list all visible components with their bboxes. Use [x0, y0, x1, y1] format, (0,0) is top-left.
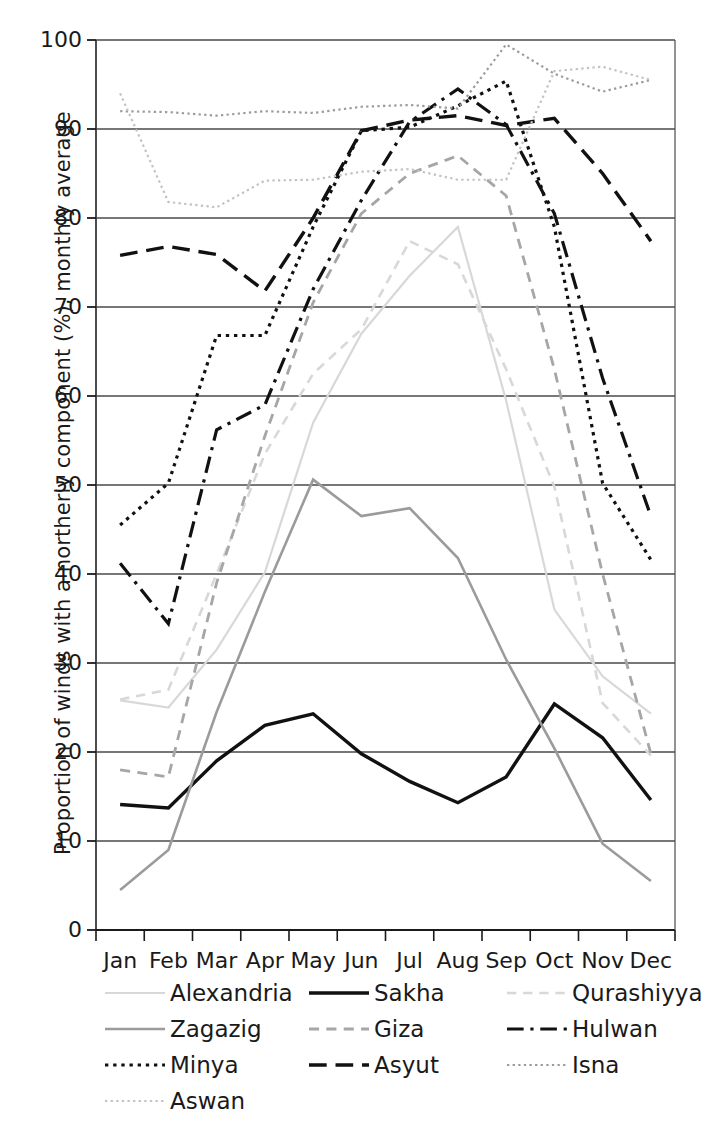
- legend-item-isna[interactable]: Isna: [506, 1047, 696, 1083]
- legend-label: Asyut: [374, 1054, 439, 1077]
- series-line-hulwan: [120, 89, 651, 624]
- legend-item-qurashiyya[interactable]: Qurashiyya: [506, 975, 696, 1011]
- y-axis-tick-label: 20: [24, 741, 82, 763]
- legend-label: Aswan: [170, 1090, 245, 1113]
- series-line-giza: [120, 156, 651, 777]
- legend-row: Aswan: [0, 1083, 699, 1119]
- y-axis-tick-label: 90: [24, 118, 82, 140]
- x-axis-tick-label-dec: Dec: [621, 950, 681, 972]
- y-axis-tick-label: 100: [24, 29, 82, 51]
- chart-svg: [0, 0, 699, 960]
- y-axis-tick-label: 80: [24, 207, 82, 229]
- legend-label: Zagazig: [170, 1018, 262, 1041]
- legend-swatch-zagazig: [104, 1020, 166, 1038]
- legend-swatch-sakha: [308, 984, 370, 1002]
- legend-label: Minya: [170, 1054, 239, 1077]
- chart-plot-region: Proportion of winds with a northerly com…: [0, 0, 699, 960]
- chart-legend: AlexandriaSakhaQurashiyyaZagazigGizaHulw…: [0, 975, 699, 1146]
- series-line-isna: [120, 44, 651, 115]
- y-axis-tick-label: 30: [24, 652, 82, 674]
- legend-item-alexandria[interactable]: Alexandria: [104, 975, 308, 1011]
- legend-label: Isna: [572, 1054, 619, 1077]
- y-axis-tick-label: 40: [24, 563, 82, 585]
- legend-item-zagazig[interactable]: Zagazig: [104, 1011, 308, 1047]
- series-line-asyut: [120, 116, 651, 291]
- legend-item-giza[interactable]: Giza: [308, 1011, 506, 1047]
- legend-swatch-alexandria: [104, 984, 166, 1002]
- legend-item-asyut[interactable]: Asyut: [308, 1047, 506, 1083]
- y-axis-tick-label: 10: [24, 830, 82, 852]
- legend-swatch-giza: [308, 1020, 370, 1038]
- legend-label: Alexandria: [170, 982, 293, 1005]
- legend-item-hulwan[interactable]: Hulwan: [506, 1011, 696, 1047]
- series-line-minya: [120, 81, 651, 560]
- legend-item-minya[interactable]: Minya: [104, 1047, 308, 1083]
- legend-row: AlexandriaSakhaQurashiyya: [0, 975, 699, 1011]
- legend-swatch-aswan: [104, 1092, 166, 1110]
- legend-item-sakha[interactable]: Sakha: [308, 975, 506, 1011]
- legend-label: Hulwan: [572, 1018, 658, 1041]
- y-axis-tick-label: 70: [24, 296, 82, 318]
- legend-item-aswan[interactable]: Aswan: [104, 1083, 308, 1119]
- legend-swatch-asyut: [308, 1056, 370, 1074]
- legend-swatch-isna: [506, 1056, 568, 1074]
- legend-row: MinyaAsyutIsna: [0, 1047, 699, 1083]
- legend-swatch-hulwan: [506, 1020, 568, 1038]
- legend-label: Giza: [374, 1018, 424, 1041]
- series-line-alexandria: [120, 227, 651, 714]
- legend-label: Sakha: [374, 982, 445, 1005]
- legend-swatch-minya: [104, 1056, 166, 1074]
- legend-label: Qurashiyya: [572, 982, 703, 1005]
- legend-swatch-qurashiyya: [506, 984, 568, 1002]
- y-axis-tick-label: 60: [24, 385, 82, 407]
- y-axis-tick-label: 0: [24, 919, 82, 941]
- y-axis-tick-label: 50: [24, 474, 82, 496]
- series-line-sakha: [120, 704, 651, 808]
- series-line-zagazig: [120, 480, 651, 890]
- legend-row: ZagazigGizaHulwan: [0, 1011, 699, 1047]
